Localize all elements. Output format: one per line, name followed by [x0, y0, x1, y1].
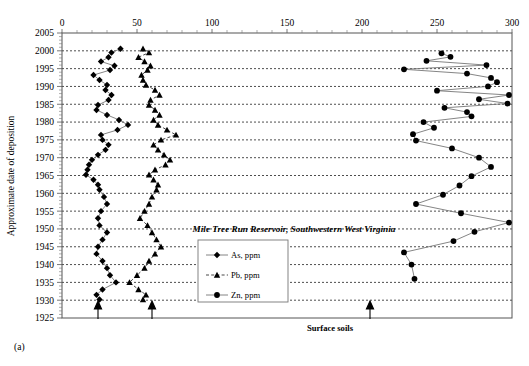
y-tick-label-2000: 2000: [35, 46, 54, 56]
series-as: [83, 45, 131, 302]
data-point-0-18: [98, 132, 104, 138]
data-point-2-10: [506, 92, 512, 98]
y-tick-label-1950: 1950: [35, 224, 54, 234]
y-tick-label-1945: 1945: [35, 242, 54, 252]
annotations: Surface soils: [94, 301, 373, 333]
chart-title-group: Mile Tree Run Reservoir, Southwestern We…: [192, 224, 396, 234]
data-point-1-4: [147, 63, 153, 69]
data-point-0-29: [96, 187, 102, 193]
data-point-2-22: [488, 164, 494, 170]
data-point-1-3: [141, 58, 147, 64]
x-tick-label-200: 200: [355, 18, 370, 28]
data-point-2-8: [485, 84, 491, 90]
data-point-2-5: [464, 71, 470, 77]
data-series: [83, 45, 512, 302]
data-point-2-9: [434, 88, 440, 94]
data-point-0-13: [93, 107, 99, 113]
figure-panel: 050100150200250300 200520001995199019851…: [0, 0, 529, 366]
y-axis-title: Approximate date of deposition: [6, 115, 16, 236]
data-point-0-25: [84, 167, 90, 173]
data-point-2-1: [448, 54, 454, 60]
data-point-2-31: [401, 250, 407, 256]
data-point-2-25: [440, 192, 446, 198]
data-point-1-31: [146, 201, 152, 207]
data-point-2-23: [469, 173, 475, 179]
data-point-2-30: [451, 238, 457, 244]
data-point-0-30: [101, 194, 107, 200]
data-point-0-14: [104, 112, 110, 118]
y-tick-label-1935: 1935: [35, 278, 54, 288]
legend: As, ppmPb, ppmZn, ppm: [198, 240, 288, 302]
data-point-1-44: [143, 292, 149, 298]
data-point-2-20: [449, 146, 455, 152]
y-axis: 2005200019951990198519801975197019651960…: [35, 28, 62, 323]
data-point-1-9: [152, 87, 158, 93]
data-point-1-40: [141, 265, 147, 271]
data-point-0-17: [114, 127, 120, 133]
legend-label-2: Zn, ppm: [231, 290, 260, 300]
arrow-head-3: [366, 301, 373, 309]
y-tick-label-1965: 1965: [35, 171, 54, 181]
surface-soil-arrow-3: [366, 301, 373, 319]
y-tick-label-1955: 1955: [35, 207, 54, 217]
data-point-2-14: [464, 109, 470, 115]
y-tick-label-1990: 1990: [35, 82, 54, 92]
data-point-1-22: [161, 152, 167, 158]
data-point-2-18: [410, 131, 416, 137]
data-point-0-24: [86, 162, 92, 168]
data-point-2-29: [472, 229, 478, 235]
x-axis: 050100150200250300: [60, 18, 520, 33]
data-point-2-15: [469, 113, 475, 119]
y-tick-label-1930: 1930: [35, 296, 54, 306]
arrow-head-2: [148, 301, 155, 309]
data-point-2-12: [505, 101, 511, 107]
x-tick-label-50: 50: [132, 18, 142, 28]
data-point-2-0: [439, 50, 445, 56]
data-point-1-38: [152, 251, 158, 257]
data-point-0-21: [102, 147, 108, 153]
data-point-2-24: [457, 183, 463, 189]
data-point-2-27: [458, 210, 464, 216]
x-tick-label-300: 300: [505, 18, 520, 28]
legend-label-0: As, ppm: [231, 250, 260, 260]
data-point-1-15: [150, 117, 156, 123]
data-point-1-0: [140, 45, 146, 51]
data-point-2-33: [412, 276, 418, 282]
series-path-1: [130, 49, 177, 300]
data-point-2-21: [476, 155, 482, 161]
y-tick-label-1995: 1995: [35, 64, 54, 74]
series-pb: [126, 45, 179, 302]
data-point-0-16: [125, 122, 131, 128]
chart-svg: 050100150200250300 200520001995199019851…: [0, 0, 529, 366]
data-point-0-40: [104, 265, 110, 271]
data-point-2-17: [431, 125, 437, 131]
data-point-2-3: [484, 62, 490, 68]
data-point-2-26: [413, 201, 419, 207]
chart-title: Mile Tree Run Reservoir, Southwestern We…: [192, 224, 396, 234]
y-tick-label-1970: 1970: [35, 153, 54, 163]
data-point-2-2: [424, 58, 430, 64]
data-point-0-15: [116, 117, 122, 123]
data-point-1-1: [146, 49, 152, 55]
data-point-2-11: [476, 96, 482, 102]
data-point-2-16: [421, 119, 427, 125]
data-point-0-33: [95, 215, 101, 221]
data-point-2-7: [494, 79, 500, 85]
y-tick-label-1985: 1985: [35, 100, 54, 110]
data-point-2-28: [506, 220, 512, 226]
y-tick-label-1925: 1925: [35, 313, 54, 323]
surface-soils-label: Surface soils: [307, 323, 354, 333]
data-point-1-30: [149, 194, 155, 200]
data-point-2-6: [488, 75, 494, 81]
data-point-1-20: [150, 142, 156, 148]
data-point-0-11: [105, 97, 111, 103]
data-point-2-19: [413, 138, 419, 144]
x-tick-label-100: 100: [205, 18, 220, 28]
data-point-2-4: [401, 66, 407, 72]
data-point-0-26: [83, 172, 89, 178]
data-point-2-32: [409, 262, 415, 268]
y-tick-label-1940: 1940: [35, 260, 54, 270]
data-point-2-13: [442, 105, 448, 111]
surface-soil-arrow-2: [148, 301, 155, 319]
data-point-0-36: [99, 236, 105, 242]
